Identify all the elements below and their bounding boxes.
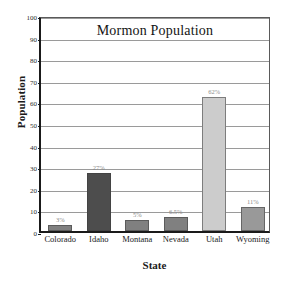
bar-group: 5%Montana	[118, 18, 157, 231]
y-axis-tick-label: 0	[34, 230, 38, 238]
y-axis-tick-label: 30	[30, 165, 37, 173]
bar[interactable]	[87, 173, 111, 231]
y-axis-tick-label: 80	[30, 57, 37, 65]
y-axis-tick-label: 10	[30, 208, 37, 216]
bar[interactable]	[164, 217, 188, 231]
x-axis-category-label: Utah	[206, 234, 223, 244]
y-axis-tick-label: 100	[27, 14, 38, 22]
bar-chart: Population 0102030405060708090100 3%Colo…	[0, 0, 281, 285]
x-axis-category-label: Nevada	[163, 234, 189, 244]
bar-group: 27%Idaho	[80, 18, 119, 231]
bar[interactable]	[125, 220, 149, 231]
y-axis-title: Population	[15, 47, 27, 157]
bar-value-label: 3%	[56, 216, 65, 223]
y-axis-tick-label: 40	[30, 144, 37, 152]
y-axis-tick-mark	[38, 234, 41, 235]
bar-group: 11%Wyoming	[234, 18, 273, 231]
bar-value-label: 5%	[133, 211, 142, 218]
y-axis-tick-label: 60	[30, 100, 37, 108]
bar-group: 3%Colorado	[41, 18, 80, 231]
x-axis-category-label: Idaho	[89, 234, 108, 244]
bar-value-label: 62%	[208, 88, 220, 95]
bar[interactable]	[48, 225, 72, 231]
bar-series: 3%Colorado27%Idaho5%Montana6.5%Nevada62%…	[41, 18, 269, 231]
chart-title: Mormon Population	[41, 23, 269, 39]
x-axis-title: State	[36, 259, 273, 271]
bar[interactable]	[241, 207, 265, 231]
bar-value-label: 11%	[247, 198, 259, 205]
y-axis-tick-label: 20	[30, 187, 37, 195]
x-axis-category-label: Montana	[122, 234, 152, 244]
x-axis-category-label: Colorado	[44, 234, 76, 244]
y-axis-tick-label: 50	[30, 122, 37, 130]
y-axis-tick-label: 70	[30, 79, 37, 87]
bar[interactable]	[202, 97, 226, 231]
bar-value-label: 6.5%	[169, 208, 183, 215]
y-axis-tick-label: 90	[30, 36, 37, 44]
bar-group: 6.5%Nevada	[157, 18, 196, 231]
x-axis-category-label: Wyoming	[236, 234, 270, 244]
bar-group: 62%Utah	[195, 18, 234, 231]
bar-value-label: 27%	[93, 164, 105, 171]
plot-area: 0102030405060708090100 3%Colorado27%Idah…	[39, 17, 270, 233]
